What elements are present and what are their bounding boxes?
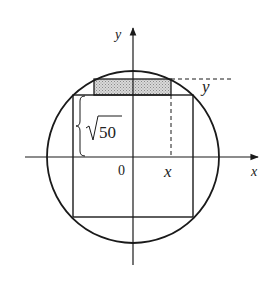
sqrt-radicand: 50 [99, 123, 116, 142]
x-point-label: x [163, 162, 172, 181]
y-point-label: y [200, 77, 210, 96]
y-axis-label: y [113, 27, 122, 42]
origin-label: 0 [118, 163, 125, 178]
brace [76, 96, 85, 156]
diagram-canvas: 50 y x 0 x y [0, 0, 276, 283]
x-axis-label: x [250, 164, 258, 179]
